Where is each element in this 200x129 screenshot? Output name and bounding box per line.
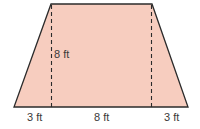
bottom-right-label: 3 ft (164, 111, 179, 123)
bottom-middle-label: 8 ft (94, 111, 109, 123)
height-label: 8 ft (54, 48, 69, 60)
trapezoid-diagram: 8 ft 3 ft 8 ft 3 ft (0, 0, 200, 129)
trapezoid-shape (14, 4, 188, 107)
bottom-left-label: 3 ft (27, 111, 42, 123)
